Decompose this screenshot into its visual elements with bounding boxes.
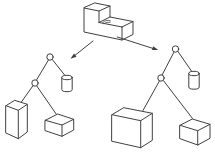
l-block-outline xyxy=(84,3,133,40)
right-tree-edge-root-cylinder xyxy=(178,51,192,72)
left-tree-edge-root-internal xyxy=(36,60,48,80)
left-tree-internal-operator-node xyxy=(32,80,38,86)
arrow-right-head xyxy=(152,46,158,50)
right-tree-root-operator-node xyxy=(172,46,178,52)
left-tree-root-operator-node xyxy=(47,54,53,60)
left-tree xyxy=(6,54,74,139)
right-tree xyxy=(112,46,210,148)
left-tree-leaf-tall-box xyxy=(6,100,27,138)
arrow-right-shaft xyxy=(117,37,153,49)
arrow-to-right-tree xyxy=(117,37,158,50)
right-tree-edge-root-internal xyxy=(162,52,174,75)
small-box-outline xyxy=(180,119,210,145)
large-box-outline xyxy=(112,108,152,148)
right-tree-leaf-small-box xyxy=(180,119,210,145)
diagram-root-group xyxy=(6,3,210,148)
left-tree-leaf-small-box xyxy=(45,114,73,136)
left-tree-edge-internal-smallbox xyxy=(37,86,57,115)
right-tree-internal-operator-node xyxy=(158,75,164,81)
decomposition-diagram xyxy=(0,0,215,154)
cylinder-top xyxy=(189,71,199,75)
source-solid-l-block xyxy=(84,3,133,40)
small-box-outline xyxy=(45,114,73,136)
left-tree-edge-root-cylinder xyxy=(52,59,65,75)
right-tree-leaf-cylinder xyxy=(189,71,199,89)
cylinder-top xyxy=(62,75,72,79)
arrow-to-left-tree xyxy=(71,41,94,59)
left-tree-leaf-cylinder xyxy=(62,75,72,91)
diagram-svg xyxy=(0,0,215,154)
right-tree-edge-internal-smallbox xyxy=(164,81,193,119)
right-tree-edge-internal-largebox xyxy=(143,81,160,111)
right-tree-leaf-large-box xyxy=(112,108,152,148)
arrow-left-shaft xyxy=(74,41,94,57)
left-tree-edge-internal-tallbox xyxy=(21,86,33,103)
